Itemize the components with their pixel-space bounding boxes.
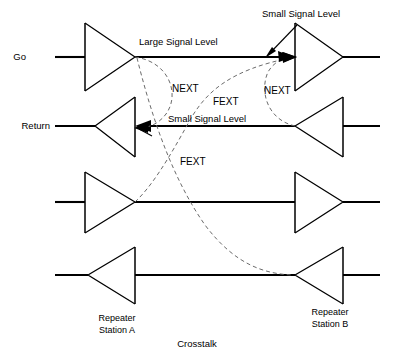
label-station-a-line2: Station A	[99, 325, 135, 335]
label-fext-lower: FEXT	[180, 156, 206, 167]
next-left-curve	[135, 57, 172, 127]
amp-a-row4-triangle	[88, 247, 135, 304]
diagram-canvas: Go Return Large Signal Level Small Signa…	[0, 0, 394, 355]
amp-b-return-triangle	[295, 97, 343, 157]
amp-b-row4-triangle	[295, 247, 343, 304]
amp-a-row3-triangle	[85, 172, 135, 233]
row-go	[55, 23, 380, 91]
label-go: Go	[13, 51, 26, 62]
row-three	[55, 172, 380, 233]
label-small-signal-level-top: Small Signal Level	[262, 8, 340, 19]
fext-upper-curve	[135, 58, 290, 202]
figure-caption: Crosstalk	[177, 338, 217, 349]
amp-b-go-triangle	[295, 23, 343, 91]
label-station-a-line1: Repeater	[98, 313, 135, 323]
crosstalk-diagram: Go Return Large Signal Level Small Signa…	[0, 0, 394, 355]
small-signal-pointer-line	[270, 25, 297, 53]
label-large-signal-level: Large Signal Level	[139, 36, 218, 47]
label-fext-upper: FEXT	[213, 96, 239, 107]
label-small-signal-level-mid: Small Signal Level	[168, 113, 246, 124]
label-return: Return	[21, 120, 50, 131]
label-next-right: NEXT	[264, 85, 291, 96]
label-next-left: NEXT	[172, 83, 199, 94]
label-station-b-line1: Repeater	[311, 307, 348, 317]
amp-a-go-triangle	[85, 23, 135, 91]
label-station-b-line2: Station B	[312, 319, 349, 329]
amp-a-return-triangle	[95, 97, 135, 157]
row-four	[55, 247, 380, 304]
amp-b-row3-triangle	[295, 172, 343, 233]
